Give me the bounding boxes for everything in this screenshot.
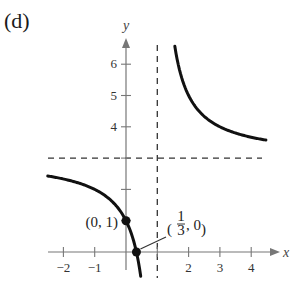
right-branch (175, 46, 266, 140)
right-paren: ) (201, 221, 206, 238)
x-tick-label: 2 (185, 260, 192, 275)
fraction-denominator: 3 (177, 222, 185, 238)
graph: xy−2−1234456 (0, 1)(13, 0) (0, 0, 292, 281)
asymptotes (48, 45, 262, 278)
left-paren: ( (167, 221, 172, 238)
y-tick-label: 5 (111, 88, 118, 103)
y-tick-label: 4 (111, 119, 118, 134)
x-tick-label: 3 (217, 260, 224, 275)
y-intercept-label: (0, 1) (86, 214, 119, 231)
x-axis-label: x (282, 245, 290, 260)
x-tick-label: −2 (56, 260, 70, 275)
point-y-intercept (122, 216, 131, 225)
x-tick-label: 4 (248, 260, 255, 275)
y-tick-label: 6 (111, 56, 118, 71)
y-axis-label: y (121, 18, 130, 33)
x-axis-arrow-icon (270, 248, 280, 256)
label-rest: , 0 (186, 217, 201, 233)
x-intercept-label: (13, 0) (167, 208, 206, 238)
x-intercept-leader (140, 237, 166, 249)
x-tick-label: −1 (88, 260, 102, 275)
points: (0, 1)(13, 0) (86, 208, 207, 257)
point-x-intercept (132, 248, 141, 257)
y-axis-arrow-icon (122, 38, 130, 48)
